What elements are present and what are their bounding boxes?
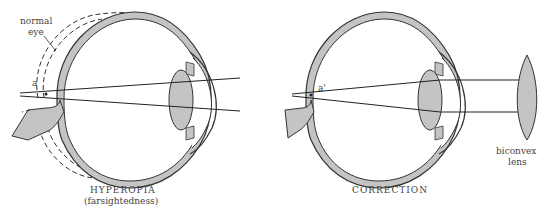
biconvex-lens (517, 55, 537, 140)
optic-nerve (12, 100, 64, 140)
lens-label-2: lens (508, 157, 527, 167)
hyperopic-eye: normal eye a HYPEROPIA (farsightedness) (12, 12, 240, 206)
normal-eye-label-1: normal (20, 16, 52, 26)
normal-eye-label-2: eye (28, 27, 44, 37)
focus-label-a: a (32, 78, 38, 88)
correction-title: CORRECTION (352, 185, 428, 195)
lens-label-1: biconvex (496, 146, 536, 156)
corrected-eye: a' CORRECTION biconvex lens (285, 12, 537, 195)
focus-label-a-prime: a' (318, 83, 326, 93)
focal-point-a (45, 93, 48, 96)
hyperopia-diagram: normal eye a HYPEROPIA (farsightedness) … (0, 0, 548, 216)
hyperopia-subtitle: (farsightedness) (84, 196, 158, 206)
hyperopia-title: HYPEROPIA (90, 185, 156, 195)
